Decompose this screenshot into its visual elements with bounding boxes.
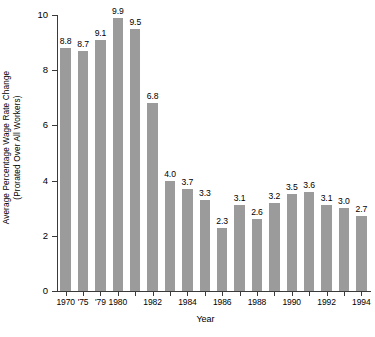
bar-value-label: 3.6 (303, 181, 315, 190)
x-tick-mark (153, 292, 154, 296)
bar-value-label: 6.8 (147, 92, 159, 101)
bar-value-label: 2.3 (216, 217, 228, 226)
bar-value-label: 9.1 (95, 29, 107, 38)
x-tick-mark (344, 292, 345, 296)
bar (356, 216, 366, 291)
y-tick-label: 4 (18, 176, 48, 186)
x-tick-label: 1970 (56, 297, 75, 307)
x-tick-label: 1994 (352, 297, 371, 307)
x-tick-mark (66, 292, 67, 296)
x-tick-label: 1984 (178, 297, 197, 307)
y-tick-label: 8 (18, 65, 48, 75)
bar (287, 194, 297, 291)
bar-value-label: 3.0 (338, 197, 350, 206)
x-tick-label: 1992 (317, 297, 336, 307)
bar-value-label: 3.2 (269, 192, 281, 201)
bar-value-label: 3.3 (199, 189, 211, 198)
x-tick-label: 1980 (109, 297, 128, 307)
y-axis-title: Average Percentage Wage Rate Change (Pro… (0, 0, 26, 295)
bar (304, 192, 314, 291)
x-tick-mark (170, 292, 171, 296)
bar (147, 103, 157, 291)
x-tick-mark (83, 292, 84, 296)
bar-value-label: 9.9 (112, 7, 124, 16)
y-axis-title-line-1: Average Percentage Wage Rate Change (3, 71, 14, 225)
bar (217, 228, 227, 291)
x-tick-label: '79 (95, 297, 106, 307)
x-tick-mark (274, 292, 275, 296)
y-tick-label: 6 (18, 120, 48, 130)
x-tick-mark (240, 292, 241, 296)
x-tick-mark (187, 292, 188, 296)
bar (321, 205, 331, 291)
bar (269, 203, 279, 291)
x-tick-mark (327, 292, 328, 296)
x-tick-mark (205, 292, 206, 296)
bar-value-label: 3.7 (182, 178, 194, 187)
bar (78, 51, 88, 291)
bar (95, 40, 105, 291)
bar-value-label: 8.8 (60, 37, 72, 46)
x-axis-line (57, 291, 371, 292)
bar-value-label: 2.6 (251, 208, 263, 217)
bar (182, 189, 192, 291)
x-tick-label: 1990 (282, 297, 301, 307)
x-axis-title-text: Year (196, 314, 214, 324)
x-tick-mark (309, 292, 310, 296)
bar (200, 200, 210, 291)
y-tick-label: 0 (18, 286, 48, 296)
x-tick-mark (222, 292, 223, 296)
x-tick-mark (361, 292, 362, 296)
bar (234, 205, 244, 291)
bar-value-label: 3.1 (234, 194, 246, 203)
bar (130, 29, 140, 291)
wage-rate-change-bar-chart: Average Percentage Wage Rate Change (Pro… (0, 0, 375, 337)
bar (60, 48, 70, 291)
y-tick-label: 2 (18, 231, 48, 241)
plot-area: 8.88.79.19.99.56.84.03.73.32.33.12.63.23… (57, 15, 370, 291)
bar-value-label: 4.0 (164, 170, 176, 179)
bar (339, 208, 349, 291)
y-tick-label: 10 (18, 10, 48, 20)
x-tick-label: 1982 (143, 297, 162, 307)
x-axis-title: Year (0, 314, 375, 325)
x-tick-label: 1986 (213, 297, 232, 307)
bar (113, 18, 123, 291)
x-tick-mark (135, 292, 136, 296)
x-tick-mark (257, 292, 258, 296)
x-tick-mark (100, 292, 101, 296)
y-tick-mark (52, 291, 57, 292)
y-axis-title-line-2: (Prorated Over All Workers) (13, 71, 24, 225)
x-tick-mark (118, 292, 119, 296)
x-tick-mark (292, 292, 293, 296)
bar-value-label: 8.7 (77, 40, 89, 49)
bar (252, 219, 262, 291)
bar-value-label: 3.5 (286, 183, 298, 192)
x-tick-label: '75 (78, 297, 89, 307)
bar-value-label: 2.7 (355, 205, 367, 214)
bar-value-label: 9.5 (129, 18, 141, 27)
bar-value-label: 3.1 (321, 194, 333, 203)
bar (165, 181, 175, 291)
x-tick-label: 1988 (248, 297, 267, 307)
